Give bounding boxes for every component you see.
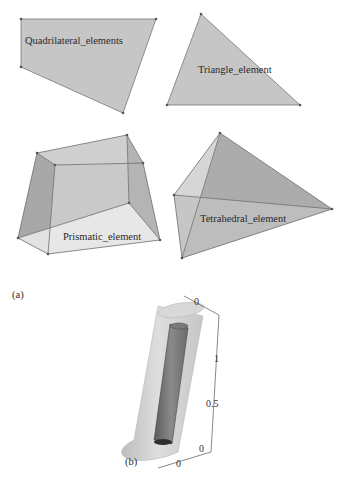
quadrilateral-label: Quadrilateral_elements bbox=[25, 36, 123, 47]
tick-horizontal-0: 0 bbox=[176, 459, 181, 469]
tetrahedral-element bbox=[173, 132, 334, 260]
panel-b-label: (b) bbox=[125, 457, 137, 468]
quadrilateral-element bbox=[20, 18, 158, 115]
prism-label: Prismatic_element bbox=[63, 232, 141, 243]
tick-top-0: 0 bbox=[194, 297, 199, 307]
tick-1: 1 bbox=[214, 354, 219, 364]
panel-a-label: (a) bbox=[12, 290, 24, 301]
triangle-element bbox=[166, 13, 302, 107]
triangle-label: Triangle_element bbox=[198, 65, 272, 76]
cylinder-model bbox=[122, 296, 219, 468]
tick-bottom-0: 0 bbox=[199, 444, 204, 454]
figure-canvas bbox=[0, 0, 350, 481]
tetrahedron-label: Tetrahedral_element bbox=[200, 214, 286, 225]
tick-0-5: 0.5 bbox=[206, 399, 219, 409]
